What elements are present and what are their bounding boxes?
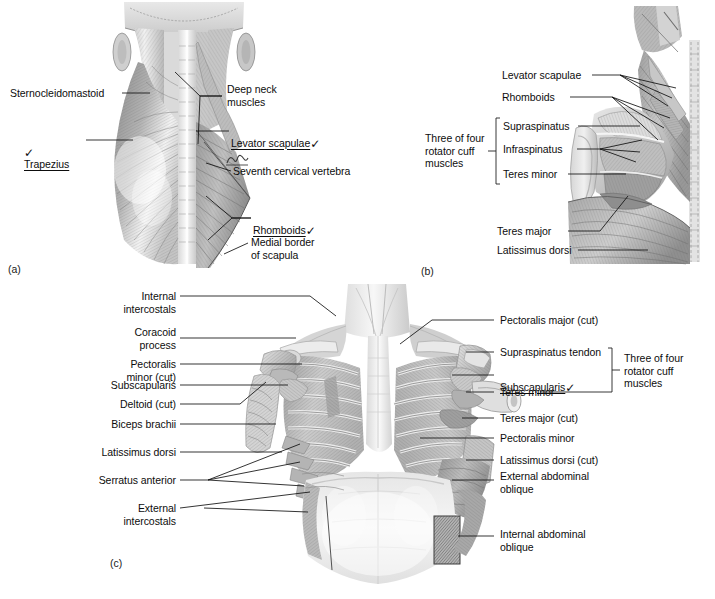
label-supraspinatus-b: Supraspinatus [503,120,569,133]
panel-c-illustration [228,284,528,588]
label-sternocleidomastoid: Sternocleidomastoid [10,87,122,100]
check-icon-subscapularis: ✓ [565,381,575,394]
label-coracoid-process-c: Coracoid process [70,326,176,351]
label-rhomboids-a: Rhomboids✓ [253,211,316,236]
label-teres-minor-c: Teres minor [500,386,554,399]
label-teres-minor-b: Teres minor [503,168,557,181]
panel-tag-b: (b) [421,265,434,277]
label-internal-intercostals-c: Internal intercostals [70,290,176,315]
label-internal-abdominal-oblique-c: Internal abdominal oblique [500,528,618,553]
anatomy-figure: Sternocleidomastoid ✓ Trapezius Deep nec… [0,0,715,599]
check-icon-trapezius: ✓ [24,146,34,159]
label-medial-border-of-scapula: Medial border of scapula [251,236,331,261]
label-teres-major-b: Teres major [497,225,551,238]
check-icon-rhomboids: ✓ [306,224,316,237]
label-seventh-cervical-vertebra: Seventh cervical vertebra [233,165,383,178]
label-pectoralis-major-cut-c: Pectoralis major (cut) [500,314,598,327]
label-latissimus-dorsi-cut-c: Latissimus dorsi (cut) [500,454,598,467]
check-icon-levator-scapulae: ✓ [310,137,320,150]
label-trapezius: ✓ Trapezius [24,133,69,171]
label-serratus-anterior-c: Serratus anterior [56,474,176,487]
label-infraspinatus-b: Infraspinatus [503,143,562,156]
bracket-label-rotator-cuff-b: Three of four rotator cuff muscles [425,132,489,170]
label-levator-scapulae-a: Levator scapulae✓ [231,124,320,149]
label-deltoid-cut-c: Deltoid (cut) [64,398,176,411]
label-levator-scapulae-b: Levator scapulae [502,69,581,82]
panel-tag-c: (c) [110,557,122,569]
label-subscapularis-left-c: Subscapularis [64,379,176,392]
bracket-label-rotator-cuff-c: Three of four rotator cuff muscles [624,352,694,390]
label-deep-neck-muscles: Deep neck muscles [227,83,297,108]
label-levator-scapulae-a-text: Levator scapulae [231,137,310,149]
handwritten-scribble-c7 [224,152,250,166]
label-latissimus-dorsi-c: Latissimus dorsi [58,446,176,459]
panel-b-illustration [560,6,715,268]
label-rhomboids-a-text: Rhomboids [253,224,306,236]
label-pectoralis-minor-c: Pectoralis minor [500,432,574,445]
label-external-intercostals-c: External intercostals [58,502,176,527]
label-biceps-brachii-c: Biceps brachii [64,418,176,431]
label-trapezius-text: Trapezius [24,158,69,170]
panel-tag-a: (a) [8,263,21,275]
label-teres-major-cut-c: Teres major (cut) [500,412,578,425]
label-external-abdominal-oblique-c: External abdominal oblique [500,470,618,495]
label-rhomboids-b: Rhomboids [502,91,555,104]
label-latissimus-dorsi-b: Latissimus dorsi [497,244,571,257]
label-supraspinatus-tendon-c: Supraspinatus tendon [500,346,601,359]
